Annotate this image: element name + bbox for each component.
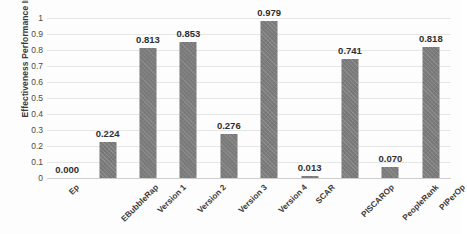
- x-axis-tick-label: PeopleRank: [401, 183, 441, 223]
- y-axis-title: Effectiveness Performance Index: [20, 0, 30, 134]
- bar[interactable]: [422, 47, 439, 178]
- y-axis-tick-label: 1: [38, 13, 43, 23]
- bar-value-label: 0.276: [217, 120, 241, 131]
- x-axis-tick-labels: EpEBubbleRapVersion 1Version 2Version 3V…: [47, 180, 451, 234]
- bar[interactable]: [301, 176, 318, 178]
- bar-value-label: 0.979: [257, 7, 281, 18]
- bar[interactable]: [220, 134, 237, 178]
- bar-value-label: 0.818: [419, 33, 443, 44]
- bar-group: 0.000: [47, 18, 87, 178]
- bar[interactable]: [99, 142, 116, 178]
- bar[interactable]: [139, 48, 156, 178]
- y-axis-tick-label: 0.1: [31, 157, 43, 167]
- bar-group: 0.224: [87, 18, 127, 178]
- y-axis-tick-label: 0.9: [31, 29, 43, 39]
- bars-layer: 0.0000.2240.8130.8530.2760.9790.0130.741…: [47, 18, 451, 178]
- bar[interactable]: [382, 167, 399, 178]
- y-axis-tick-label: 0.3: [31, 125, 43, 135]
- bar-group: 0.979: [249, 18, 289, 178]
- bar-value-label: 0.000: [55, 164, 79, 175]
- bar-group: 0.741: [330, 18, 370, 178]
- x-axis-tick-label: Version 2: [196, 183, 228, 215]
- bar[interactable]: [180, 42, 197, 178]
- y-axis-tick-label: 0.6: [31, 77, 43, 87]
- bar-group: 0.070: [370, 18, 410, 178]
- x-axis-tick-label: Version 1: [156, 183, 188, 215]
- x-axis-tick-label: PISCAROp: [360, 183, 396, 219]
- bar-group: 0.813: [128, 18, 168, 178]
- bar-value-label: 0.853: [176, 28, 200, 39]
- bar[interactable]: [341, 59, 358, 178]
- bar-group: 0.276: [209, 18, 249, 178]
- gridline: [47, 178, 451, 179]
- bar-value-label: 0.741: [338, 45, 362, 56]
- x-axis-tick-label: EBubbleRap: [119, 183, 160, 224]
- y-axis-tick-label: 0.7: [31, 61, 43, 71]
- bar-group: 0.853: [168, 18, 208, 178]
- x-axis-tick-label: Version 4: [277, 183, 309, 215]
- bar[interactable]: [261, 21, 278, 178]
- bar-value-label: 0.013: [298, 162, 322, 173]
- y-axis-tick-label: 0.2: [31, 141, 43, 151]
- y-axis-tick-label: 0.5: [31, 93, 43, 103]
- y-axis-tick-label: 0: [38, 173, 43, 183]
- x-axis-tick-label: Ep: [67, 183, 81, 197]
- bar-value-label: 0.224: [96, 128, 120, 139]
- x-axis-tick-label: SCAR: [314, 183, 337, 206]
- y-axis-tick-label: 0.8: [31, 45, 43, 55]
- y-axis-tick-label: 0.4: [31, 109, 43, 119]
- bar-group: 0.818: [411, 18, 451, 178]
- bar-group: 0.013: [289, 18, 329, 178]
- bar-value-label: 0.813: [136, 34, 160, 45]
- x-axis-tick-label: Version 3: [237, 183, 269, 215]
- bar-value-label: 0.070: [378, 153, 402, 164]
- x-axis-tick-label: PIPerOp: [437, 183, 466, 212]
- plot-area: 10.90.80.70.60.50.40.30.20.10 0.0000.224…: [47, 18, 451, 178]
